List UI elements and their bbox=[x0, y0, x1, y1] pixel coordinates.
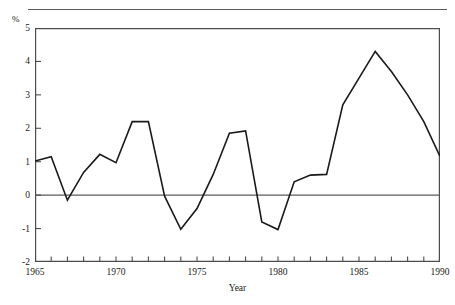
y-tick-label: -2 bbox=[22, 257, 30, 267]
y-tick-label: 5 bbox=[25, 23, 30, 33]
y-tick-label: 4 bbox=[25, 56, 30, 66]
y-tick-label: -1 bbox=[22, 224, 30, 234]
chart-figure: % 543210-1-2 196519701975198019851990 Ye… bbox=[0, 0, 455, 305]
x-tick-label: 1990 bbox=[431, 267, 450, 278]
x-tick-label: 1965 bbox=[26, 267, 45, 278]
x-tick-label: 1975 bbox=[188, 267, 207, 278]
plot-area: 543210-1-2 196519701975198019851990 bbox=[35, 28, 440, 262]
y-axis-unit-label: % bbox=[12, 14, 20, 24]
x-tick-label: 1970 bbox=[107, 267, 126, 278]
y-tick-label: 3 bbox=[25, 90, 30, 100]
plot-svg bbox=[35, 28, 440, 262]
axes-group bbox=[35, 28, 440, 262]
x-axis-title: Year bbox=[35, 283, 440, 294]
y-tick-label: 0 bbox=[25, 190, 30, 200]
x-tick-label: 1980 bbox=[269, 267, 288, 278]
y-tick-label: 1 bbox=[25, 157, 30, 167]
y-tick-label: 2 bbox=[25, 123, 30, 133]
top-horizontal-rule bbox=[28, 9, 447, 10]
tick-marks-group bbox=[35, 28, 440, 262]
x-tick-label: 1985 bbox=[350, 267, 369, 278]
data-line-group bbox=[35, 51, 440, 229]
